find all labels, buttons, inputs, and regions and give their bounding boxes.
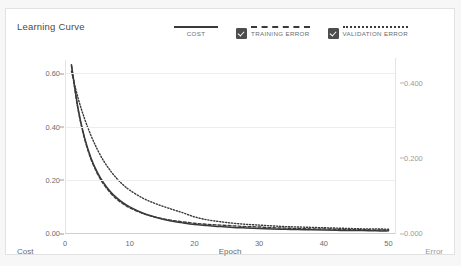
x-axis-line <box>65 233 395 234</box>
axis-title-bottom: Epoch <box>6 247 454 256</box>
y-axis-right-tick-label: 0.200 <box>404 153 423 162</box>
y-axis-right-line <box>395 58 396 234</box>
y-axis-right-tick-label: 0.400 <box>404 78 423 87</box>
axis-title-right: Error <box>425 247 443 256</box>
legend-item-cost[interactable]: COST <box>174 23 218 37</box>
legend-label-validation-error: VALIDATION ERROR <box>343 30 409 37</box>
y-axis-right-tick-label: 0.000 <box>404 229 423 238</box>
plot-area: 0.000.200.400.60 0.0000.2000.400 0102030… <box>65 60 395 233</box>
legend-line-sample-training-error <box>251 26 310 28</box>
legend-label-cost: COST <box>187 30 206 37</box>
gridline-horizontal <box>65 127 395 128</box>
y-axis-left-tick-label: 0.20 <box>45 175 60 184</box>
y-axis-left-line <box>65 60 66 233</box>
gridline-horizontal <box>65 73 395 74</box>
chart-card: Learning Curve COST TRAINING ERROR VALID… <box>5 8 455 255</box>
y-axis-left-tick-label: 0.40 <box>45 122 60 131</box>
chart-legend: COST TRAINING ERROR VALIDATION ERROR <box>174 23 408 39</box>
legend-label-training-error: TRAINING ERROR <box>251 30 310 37</box>
series-line-validation-error <box>71 71 388 229</box>
series-line-training-error <box>71 66 388 230</box>
legend-item-training-error[interactable]: TRAINING ERROR <box>236 23 310 39</box>
legend-line-sample-cost <box>174 26 218 28</box>
chart-curves <box>65 60 395 233</box>
legend-item-validation-error[interactable]: VALIDATION ERROR <box>328 23 409 39</box>
series-line-cost <box>71 65 388 231</box>
checkbox-icon-validation-error[interactable] <box>328 28 339 39</box>
checkbox-icon-training-error[interactable] <box>236 28 247 39</box>
legend-line-sample-validation-error <box>343 26 409 28</box>
y-axis-left-tick-label: 0.60 <box>45 69 60 78</box>
page-title: Learning Curve <box>17 21 85 32</box>
gridline-horizontal <box>65 180 395 181</box>
y-axis-left-tick-label: 0.00 <box>45 229 60 238</box>
